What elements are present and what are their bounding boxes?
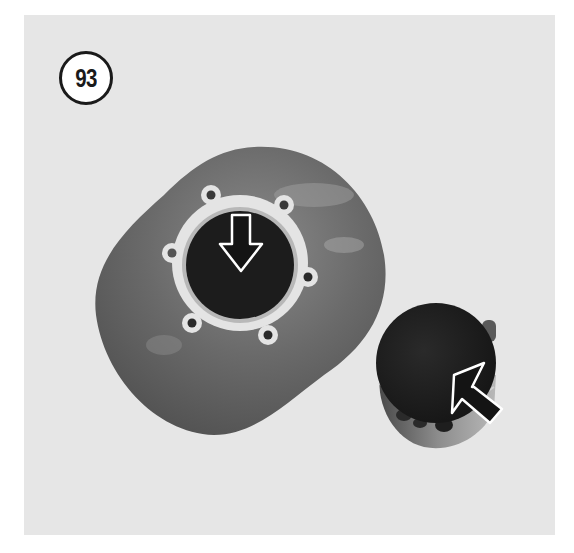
figure-number: 93: [75, 64, 96, 93]
figure-number-badge: 93: [59, 51, 113, 105]
photo-frame: 93: [24, 15, 555, 535]
